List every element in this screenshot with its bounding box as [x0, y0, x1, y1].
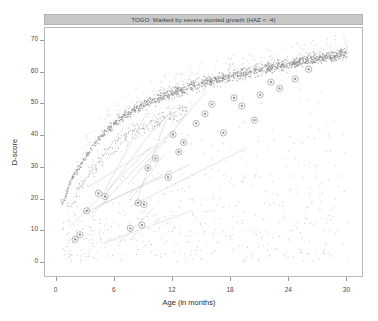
data-point — [313, 52, 314, 53]
data-point — [258, 63, 259, 64]
data-point — [211, 81, 212, 82]
data-point — [119, 235, 120, 236]
data-point — [69, 182, 70, 183]
data-point — [222, 81, 223, 82]
data-point — [258, 258, 259, 259]
data-point — [87, 152, 88, 153]
data-point — [213, 196, 214, 197]
data-point — [89, 251, 90, 252]
data-point — [266, 69, 267, 70]
data-point — [179, 96, 180, 97]
data-point — [329, 137, 330, 138]
data-point — [307, 253, 308, 254]
data-point — [135, 110, 136, 111]
data-point — [131, 111, 132, 112]
data-point — [283, 70, 284, 71]
data-point — [218, 131, 219, 132]
data-point — [82, 187, 83, 188]
data-point — [174, 97, 175, 98]
data-point — [193, 80, 194, 81]
data-point — [88, 166, 89, 167]
data-point — [78, 186, 79, 187]
data-point — [120, 141, 121, 142]
data-point — [257, 76, 258, 77]
data-point — [148, 129, 149, 130]
data-point — [106, 153, 107, 154]
data-point — [239, 78, 240, 79]
data-point — [230, 235, 231, 236]
data-point — [261, 103, 262, 104]
data-point — [225, 82, 226, 83]
data-point — [202, 86, 203, 87]
data-point — [319, 258, 320, 259]
data-point — [173, 92, 174, 93]
data-point — [255, 176, 256, 177]
data-point — [297, 193, 298, 194]
data-point — [344, 55, 345, 56]
data-point — [331, 60, 332, 61]
data-point — [79, 234, 81, 236]
data-point — [237, 81, 238, 82]
data-point — [335, 198, 336, 199]
data-point — [192, 85, 193, 86]
data-point — [344, 40, 345, 41]
data-point — [118, 148, 119, 149]
data-point — [331, 55, 332, 56]
data-point — [177, 86, 178, 87]
data-point — [258, 75, 259, 76]
data-point — [342, 59, 343, 60]
data-point — [229, 236, 230, 237]
data-point — [201, 79, 202, 80]
data-point — [263, 66, 264, 67]
data-point — [248, 54, 249, 55]
data-point — [148, 100, 149, 101]
data-point — [253, 72, 254, 73]
data-point — [251, 71, 252, 72]
data-point — [275, 69, 276, 70]
data-point — [164, 223, 165, 224]
data-point — [178, 122, 179, 123]
data-point — [242, 181, 243, 182]
data-point — [141, 135, 142, 136]
data-point — [343, 54, 344, 55]
data-point — [311, 59, 312, 60]
data-point — [234, 78, 235, 79]
data-point — [161, 95, 162, 96]
data-point — [77, 224, 78, 225]
data-point — [95, 168, 96, 169]
data-point — [196, 92, 197, 93]
data-point — [152, 215, 153, 216]
data-point — [216, 80, 217, 81]
data-point — [335, 57, 336, 58]
data-point — [323, 49, 324, 50]
data-point — [310, 223, 311, 224]
data-point — [203, 74, 204, 75]
data-point — [160, 254, 161, 255]
data-point — [256, 172, 257, 173]
data-point — [303, 57, 304, 58]
data-point — [232, 227, 233, 228]
data-point — [294, 78, 296, 80]
data-point — [200, 223, 201, 224]
data-point — [99, 228, 100, 229]
data-point — [323, 60, 324, 61]
data-point — [201, 62, 202, 63]
data-point — [199, 91, 200, 92]
data-point — [183, 90, 184, 91]
data-point — [105, 149, 106, 150]
data-point — [135, 138, 136, 139]
data-point — [267, 200, 268, 201]
data-point — [133, 126, 134, 127]
data-point — [326, 219, 327, 220]
data-point — [181, 113, 182, 114]
data-point — [161, 87, 162, 88]
data-point — [104, 225, 105, 226]
data-point — [339, 52, 340, 53]
data-point — [229, 77, 230, 78]
data-point — [150, 120, 151, 121]
data-point — [270, 174, 271, 175]
data-point — [217, 60, 218, 61]
data-point — [200, 205, 201, 206]
data-point — [179, 107, 180, 108]
data-point — [169, 99, 170, 100]
